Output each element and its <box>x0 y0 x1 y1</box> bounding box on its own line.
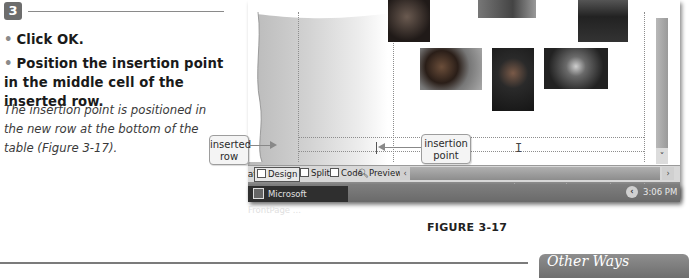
preview-view-button[interactable]: 🔍︎Preview <box>356 167 404 180</box>
step-bullet-click-ok: •Click OK. <box>4 30 230 49</box>
table-border-right <box>644 12 645 162</box>
photo-thumbnail[interactable] <box>478 0 536 18</box>
photo-thumbnail-man[interactable] <box>420 48 482 90</box>
bullet-text: Click OK. <box>17 32 84 47</box>
arrow-right-icon <box>270 141 277 149</box>
scroll-left-button[interactable]: ‹ <box>400 167 410 180</box>
photo-thumbnail-graduate[interactable] <box>492 48 534 111</box>
design-icon <box>257 169 266 178</box>
bullet-icon: • <box>4 32 13 47</box>
scroll-down-button[interactable]: ˅ <box>656 148 668 164</box>
frontpage-app-icon <box>253 188 264 199</box>
preview-label: Preview <box>369 168 402 178</box>
other-ways-title: Other Ways <box>547 253 629 269</box>
callout-inserted-row: inserted row <box>209 135 249 165</box>
inserted-row-bottom-border <box>298 151 644 152</box>
table-border-left <box>298 12 299 162</box>
taskbar-clock: 3:06 PM <box>643 186 677 199</box>
preview-icon: 🔍︎ <box>358 168 369 178</box>
code-icon <box>330 168 339 177</box>
frontpage-screenshot: ˅ gation Design Split Code 🔍︎Preview ‹ ›… <box>248 0 680 198</box>
step-number-badge: 3 <box>4 2 22 20</box>
callout-insertion-point: insertion point <box>421 134 471 164</box>
inserted-row-top-border <box>298 137 644 138</box>
vertical-scrollbar[interactable] <box>656 18 668 148</box>
arrow-left-icon <box>378 143 385 151</box>
text-cursor-icon: I <box>515 141 522 155</box>
split-view-button[interactable]: Split <box>298 167 332 180</box>
photo-thumbnail[interactable] <box>388 0 430 42</box>
tray-chevron-icon[interactable]: ‹ <box>626 186 638 198</box>
bullet-icon: • <box>4 56 13 71</box>
horizontal-scrollbar[interactable] <box>400 167 660 180</box>
scroll-right-button[interactable]: › <box>662 167 674 180</box>
torn-edge-left <box>248 12 268 162</box>
callout-arrow-line <box>249 145 271 146</box>
photo-thumbnail[interactable] <box>578 0 628 42</box>
design-view-button[interactable]: Design <box>254 167 300 182</box>
figure-caption: FIGURE 3-17 <box>427 221 507 234</box>
taskbar-frontpage-button[interactable]: Microsoft FrontPage ... <box>248 186 348 202</box>
split-icon <box>300 168 309 177</box>
step-divider <box>28 11 224 12</box>
section-divider <box>0 262 528 264</box>
photo-thumbnail-nest[interactable] <box>544 48 608 89</box>
callout-arrow-line <box>385 147 421 148</box>
insertion-point-marker <box>376 142 377 154</box>
step-result-text: The insertion point is positioned in the… <box>4 101 216 158</box>
design-label: Design <box>268 169 297 179</box>
